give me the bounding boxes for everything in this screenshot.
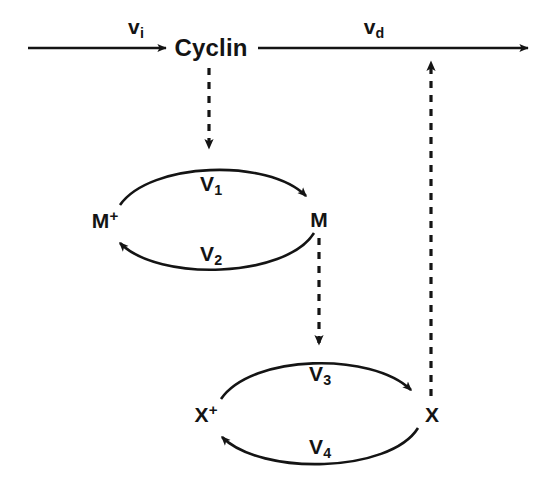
node-x-inactive-label: X (194, 403, 208, 426)
rate-v3-subscript: 3 (323, 372, 331, 388)
node-m-active: M (310, 206, 328, 231)
rate-v2-subscript: 2 (214, 252, 222, 268)
node-x-inactive-superscript: + (209, 401, 218, 418)
rate-v2-base: V (200, 242, 214, 265)
rate-vd-base: v (364, 15, 376, 38)
rate-v4-subscript: 4 (323, 445, 331, 461)
node-cyclin: Cyclin (174, 34, 247, 62)
rate-v1-base: V (200, 172, 214, 195)
rate-label-vd: vd (364, 15, 385, 41)
node-x-inactive: X+ (194, 401, 217, 426)
node-x-active: X (425, 401, 439, 426)
node-m-inactive-superscript: + (109, 207, 118, 224)
rate-label-vi: vi (128, 15, 144, 41)
rate-label-v1: V1 (200, 172, 222, 198)
rate-v3-base: V (309, 362, 323, 385)
rate-label-v4: V4 (309, 435, 331, 461)
rate-vd-subscript: d (376, 25, 385, 41)
node-m-inactive-label: M (92, 209, 110, 232)
rate-v1-subscript: 1 (214, 182, 222, 198)
node-m-active-label: M (310, 208, 328, 231)
diagram-canvas (0, 0, 556, 483)
node-x-active-label: X (425, 403, 439, 426)
rate-vi-base: v (128, 15, 140, 38)
rate-v4-base: V (309, 435, 323, 458)
node-cyclin-label: Cyclin (174, 34, 247, 61)
node-m-inactive: M+ (92, 207, 119, 232)
rate-label-v2: V2 (200, 242, 222, 268)
pathway-diagram: vi vd Cyclin M+ M X+ X V1 V2 V3 V4 (0, 0, 556, 483)
rate-label-v3: V3 (309, 362, 331, 388)
rate-vi-subscript: i (140, 25, 144, 41)
